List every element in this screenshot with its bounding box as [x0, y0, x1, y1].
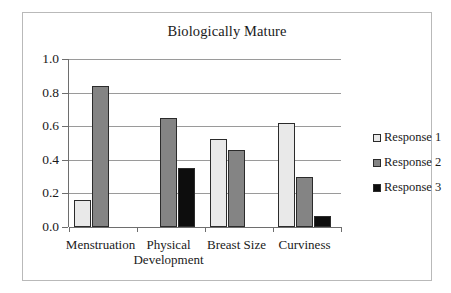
x-axis-category-label: PhysicalDevelopment — [133, 238, 203, 267]
x-axis-tick — [69, 227, 70, 232]
x-axis-category-label: Breast Size — [207, 238, 266, 253]
y-axis-tick — [62, 160, 68, 161]
x-axis-category-label: Curviness — [279, 238, 331, 253]
x-axis-tick-label: Curviness — [279, 237, 331, 252]
legend-swatch-icon — [373, 134, 381, 142]
y-axis-tick — [62, 59, 68, 60]
y-axis-tick-label: 0.6 — [42, 118, 59, 134]
bar — [178, 168, 195, 227]
legend-item[interactable]: Response 2 — [373, 155, 451, 170]
legend-item[interactable]: Response 3 — [373, 180, 451, 195]
y-axis-tick-label: 0.8 — [42, 85, 59, 101]
legend-item[interactable]: Response 1 — [373, 130, 451, 145]
y-axis-tick-label: 0.2 — [42, 185, 59, 201]
x-axis-category-label: Menstruation — [66, 238, 135, 253]
y-axis-tick — [62, 227, 68, 228]
bar — [296, 177, 313, 227]
y-axis-tick-label: 0.0 — [42, 219, 59, 235]
bar — [74, 200, 91, 227]
legend-item-label: Response 3 — [384, 180, 441, 195]
x-axis-tick — [205, 227, 206, 232]
bar-group — [205, 59, 273, 227]
y-axis-tick-label: 0.4 — [42, 152, 59, 168]
legend-swatch-icon — [373, 184, 381, 192]
bar — [210, 139, 227, 227]
plot-area: 1.00.80.60.40.20.0 MenstruationPhysicalD… — [69, 59, 341, 227]
bar — [160, 118, 177, 227]
x-axis-tick — [137, 227, 138, 232]
bar-group — [137, 59, 205, 227]
bar — [228, 150, 245, 227]
bar — [278, 123, 295, 227]
x-axis-tick — [273, 227, 274, 232]
legend-swatch-icon — [373, 159, 381, 167]
x-axis-tick — [341, 227, 342, 232]
y-axis-tick-label: 1.0 — [42, 51, 59, 67]
bar — [246, 226, 263, 227]
y-axis-tick — [62, 93, 68, 94]
chart-title: Biologically Mature — [23, 23, 431, 40]
bar — [92, 86, 109, 227]
x-axis-tick-label: Breast Size — [207, 237, 266, 252]
legend-item-label: Response 2 — [384, 155, 441, 170]
bar-group — [273, 59, 341, 227]
x-axis-tick-label: Physical — [146, 237, 190, 252]
bar — [314, 216, 331, 227]
bar-group — [69, 59, 137, 227]
x-axis-tick-label: Development — [133, 253, 203, 268]
legend-item-label: Response 1 — [384, 130, 441, 145]
y-axis-tick — [62, 126, 68, 127]
legend: Response 1Response 2Response 3 — [373, 130, 451, 205]
x-axis-tick-label: Menstruation — [66, 237, 135, 252]
y-axis-tick — [62, 193, 68, 194]
chart-frame: Biologically Mature 1.00.80.60.40.20.0 M… — [22, 12, 432, 281]
